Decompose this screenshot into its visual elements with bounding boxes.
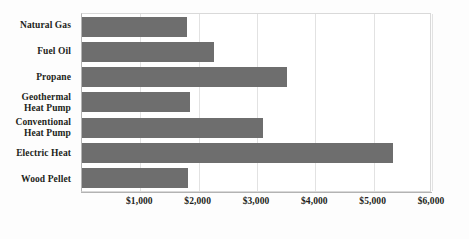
gridline [432,14,433,191]
category-label: Electric Heat [0,141,77,167]
bar[interactable] [82,118,263,138]
x-axis-tick-labels: $1,000$2,000$3,000$4,000$5,000$6,000 [0,196,469,216]
category-label: GeothermalHeat Pump [0,90,77,116]
bar-row [82,140,430,165]
x-tick-label: $4,000 [301,196,328,206]
x-axis-line [81,192,432,193]
bar-chart: Natural GasFuel OilPropaneGeothermalHeat… [0,0,469,239]
category-label: Fuel Oil [0,39,77,65]
bar[interactable] [82,143,393,163]
category-axis-labels: Natural GasFuel OilPropaneGeothermalHeat… [0,13,77,192]
bar-series [82,14,430,191]
category-label: Propane [0,64,77,90]
category-label: Natural Gas [0,13,77,39]
x-tick-label: $6,000 [418,196,445,206]
bar[interactable] [82,67,287,87]
bar-row [82,90,430,115]
x-tick-label: $2,000 [184,196,211,206]
bar-row [82,115,430,140]
category-label: ConventionalHeat Pump [0,115,77,141]
x-tick-label: $1,000 [126,196,153,206]
bar[interactable] [82,42,214,62]
bar[interactable] [82,17,187,37]
plot-area [81,13,431,192]
bar[interactable] [82,168,188,188]
bar-row [82,65,430,90]
bar-row [82,39,430,64]
bar[interactable] [82,92,190,112]
x-tick-label: $3,000 [243,196,270,206]
bar-row [82,14,430,39]
category-label: Wood Pellet [0,166,77,192]
x-tick-label: $5,000 [359,196,386,206]
bar-row [82,166,430,191]
